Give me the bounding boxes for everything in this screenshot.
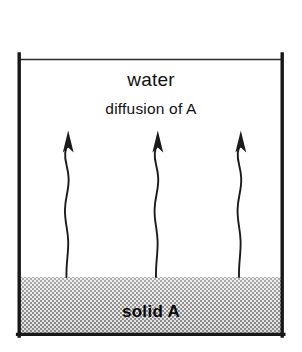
diffusion-diagram: water diffusion of A solid A bbox=[0, 0, 302, 352]
water-region bbox=[19, 59, 282, 277]
diffusion-label: diffusion of A bbox=[0, 101, 302, 117]
water-label: water bbox=[0, 70, 302, 89]
solid-label: solid A bbox=[0, 303, 302, 320]
vessel-drawing bbox=[0, 0, 302, 352]
